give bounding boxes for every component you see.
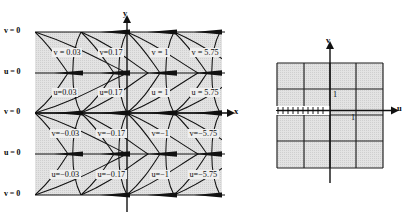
right-tick-label-v-1: 1: [333, 91, 337, 99]
right-axis-label-u: u: [397, 104, 402, 113]
curve-label-u-neg1: u=−1: [150, 170, 170, 179]
curve-label-v-neg017: v=−0.17: [96, 129, 127, 138]
right-tick-label-u-1: 1: [351, 114, 355, 122]
left-panel-graphic: [0, 0, 413, 219]
curve-label-u-neg575: u=−5.75: [188, 170, 219, 179]
edge-label-u0-lower: u = 0: [4, 149, 21, 157]
curve-label-u-003: u=0.03: [52, 88, 78, 97]
curve-label-v-575: v = 5.75: [190, 48, 220, 57]
edge-label-v0-middle: v = 0: [4, 108, 20, 116]
edge-label-u0-upper: u = 0: [4, 68, 21, 76]
edge-label-v0-top: v = 0: [4, 27, 20, 35]
curve-label-u-1: u = 1: [150, 88, 170, 97]
curve-label-u-neg017: u=−0.17: [96, 170, 127, 179]
curve-label-v-003: v = 0.03: [52, 48, 82, 57]
curve-label-u-neg003: u=−0.03: [50, 170, 81, 179]
curve-label-v-1: v = 1: [150, 48, 170, 57]
figure-root: v = 0 u = 0 v = 0 u = 0 v = 0 v = 0.03 v…: [0, 0, 413, 219]
curve-label-v-neg1: v=−1: [150, 129, 170, 138]
curve-label-v-neg575: v=−5.75: [188, 129, 219, 138]
right-axis-label-v: v: [326, 36, 330, 45]
curve-label-v-neg003: v=−0.03: [50, 129, 81, 138]
left-axis-label-x: x: [234, 107, 238, 116]
edge-label-v0-bottom: v = 0: [4, 190, 20, 198]
curve-label-u-575: u = 5.75: [190, 88, 220, 97]
left-axis-label-y: y: [123, 9, 127, 18]
curve-label-v-017: v=0.17: [98, 48, 124, 57]
curve-label-u-017: u=0.17: [98, 88, 124, 97]
